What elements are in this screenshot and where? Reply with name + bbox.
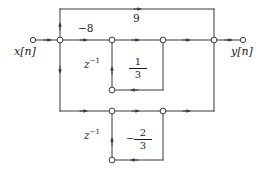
gain-label-minus-two-thirds: 2 3 — [134, 128, 152, 151]
delay-second-exponent: −1 — [90, 128, 100, 136]
node-input-terminal — [30, 37, 35, 42]
node-delay-1-state — [109, 87, 115, 93]
fraction-denominator-loop2: 3 — [134, 141, 152, 152]
input-signal-label: x[n] — [14, 46, 36, 57]
fraction-numerator-loop2: 2 — [134, 128, 152, 139]
signal-flow-graph-diagram: x[n] y[n] 9 −8 z−1 z−1 1 3 − 2 3 — [0, 0, 277, 171]
node-delay-2-state — [109, 157, 115, 163]
delay-label-second: z−1 — [84, 129, 100, 140]
node-sum-2 — [109, 37, 115, 43]
delay-label-first: z−1 — [84, 58, 100, 69]
gain-label-feedforward-9: 9 — [133, 13, 140, 24]
gain-label-one-third: 1 3 — [129, 57, 147, 80]
node-output-terminal — [240, 37, 245, 42]
node-sum-1 — [57, 37, 63, 43]
node-sum-3 — [160, 37, 166, 43]
node-sum-6 — [160, 108, 166, 114]
node-sum-5 — [109, 108, 115, 114]
delay-first-exponent: −1 — [90, 57, 100, 65]
fraction-numerator-loop1: 1 — [129, 57, 147, 68]
node-sum-4 — [211, 37, 217, 43]
fraction-denominator-loop1: 3 — [129, 70, 147, 81]
gain-label-input-minus-8: −8 — [78, 23, 93, 34]
output-signal-label: y[n] — [231, 46, 253, 57]
